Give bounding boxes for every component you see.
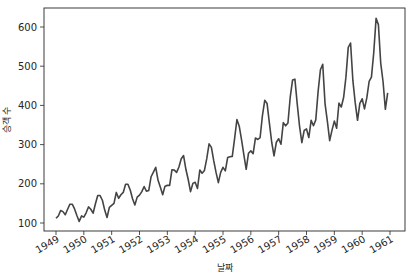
x-tick-label: 1950 bbox=[61, 233, 89, 255]
x-axis-label: 날짜 bbox=[217, 263, 234, 273]
x-tick-label: 1957 bbox=[256, 233, 284, 255]
x-tick-label: 1961 bbox=[367, 233, 395, 255]
plot-area bbox=[44, 8, 405, 231]
x-tick-label: 1958 bbox=[284, 233, 312, 255]
y-tick-label: 400 bbox=[18, 100, 37, 111]
x-tick-label: 1955 bbox=[200, 233, 228, 255]
x-tick-label: 1949 bbox=[33, 233, 61, 255]
y-tick-label: 100 bbox=[18, 218, 37, 229]
y-axis-label: 승객 수 bbox=[2, 107, 12, 134]
x-tick-label: 1951 bbox=[89, 233, 117, 255]
x-tick-label: 1954 bbox=[173, 233, 201, 255]
y-tick-label: 200 bbox=[18, 178, 37, 189]
line-chart: 100200300400500600 194919501951195219531… bbox=[0, 0, 410, 277]
x-axis: 1949195019511952195319541955195619571958… bbox=[33, 231, 395, 255]
x-tick-label: 1956 bbox=[228, 233, 256, 255]
x-tick-label: 1953 bbox=[145, 233, 173, 255]
x-tick-label: 1960 bbox=[340, 233, 368, 255]
x-tick-label: 1959 bbox=[312, 233, 340, 255]
y-tick-label: 500 bbox=[18, 61, 37, 72]
x-tick-label: 1952 bbox=[117, 233, 145, 255]
y-tick-label: 300 bbox=[18, 139, 37, 150]
y-axis: 100200300400500600 bbox=[18, 22, 44, 229]
y-tick-label: 600 bbox=[18, 22, 37, 33]
